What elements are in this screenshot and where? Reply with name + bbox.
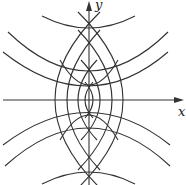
upper-curve-2 [8,32,168,71]
parabola-diagram [0,0,186,185]
x-axis-arrow-icon [174,97,184,103]
lower-curve-3 [3,113,170,146]
upper-curve-3 [3,52,168,86]
x-axis-label: x [178,104,185,119]
y-axis-label: y [95,0,102,12]
y-axis-arrow-icon [86,1,92,11]
lower-curve-2 [5,128,170,166]
